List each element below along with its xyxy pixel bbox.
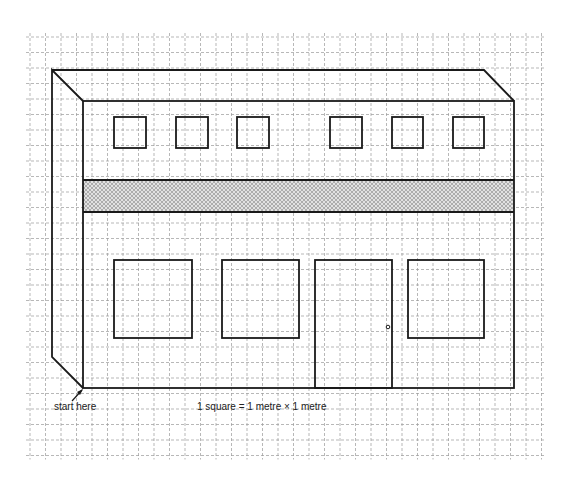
upper-window	[114, 117, 146, 148]
decorative-band	[83, 180, 514, 212]
upper-window	[330, 117, 362, 148]
upper-window	[176, 117, 208, 148]
front-face	[83, 101, 514, 388]
upper-window	[237, 117, 269, 148]
lower-window	[114, 260, 192, 338]
start-here-label: start here	[54, 401, 96, 412]
door-knob-icon	[386, 325, 390, 329]
side-face	[52, 70, 83, 388]
lower-window	[222, 260, 299, 338]
door	[315, 260, 392, 388]
grid-lines	[26, 33, 546, 460]
lower-window	[408, 260, 484, 338]
roof-edge	[52, 70, 514, 101]
start-arrow-icon	[72, 389, 83, 401]
upper-window	[392, 117, 423, 148]
scale-label: 1 square = 1 metre × 1 metre	[197, 401, 327, 412]
building-outline	[52, 70, 514, 388]
